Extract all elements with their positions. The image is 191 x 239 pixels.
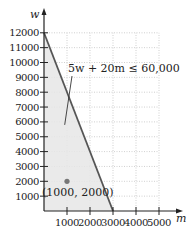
x-tick-label: 1000 — [55, 217, 79, 228]
data-point — [64, 179, 69, 184]
point-label: (1000, 2000) — [42, 186, 114, 199]
y-tick-label: 3000 — [15, 161, 39, 172]
y-tick-label: 7000 — [15, 102, 39, 113]
y-tick-label: 11000 — [9, 42, 39, 53]
y-tick-label: 8000 — [15, 87, 39, 98]
x-tick-label: 5000 — [147, 217, 171, 228]
y-tick-label: 4000 — [15, 146, 39, 157]
x-axis-label: m — [176, 212, 186, 225]
chart: 1000200030004000500060007000800090001000… — [0, 0, 191, 239]
y-axis-label: w — [30, 8, 40, 21]
y-tick-label: 6000 — [15, 116, 39, 127]
y-tick-label: 10000 — [9, 57, 39, 68]
x-tick-label: 2000 — [78, 217, 102, 228]
y-tick-label: 2000 — [15, 176, 39, 187]
y-tick-label: 5000 — [15, 131, 39, 142]
x-tick-label: 4000 — [124, 217, 148, 228]
y-tick-label: 12000 — [9, 27, 39, 38]
y-tick-label: 9000 — [15, 72, 39, 83]
y-tick-label: 1000 — [15, 191, 39, 202]
x-tick-label: 3000 — [101, 217, 125, 228]
inequality-annotation: 5w + 20m ≤ 60,000 — [68, 62, 180, 75]
